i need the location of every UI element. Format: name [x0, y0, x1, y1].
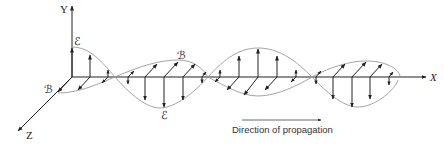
em-wave-diagram: [0, 0, 444, 148]
axes: [18, 6, 426, 131]
x-axis-label: X: [430, 72, 437, 83]
electric-field-label-bottom: ℰ: [161, 110, 168, 121]
magnetic-field-vectors: [58, 62, 393, 95]
propagation-label: Direction of propagation: [232, 124, 333, 135]
z-axis-label: Z: [26, 130, 33, 141]
electric-field-label-top: ℰ: [74, 36, 81, 47]
magnetic-field-label-top: ℬ: [177, 50, 186, 61]
magnetic-field-label-left: ℬ: [44, 84, 53, 95]
magnetic-field-envelope: [58, 60, 400, 96]
y-axis-label: Y: [60, 4, 68, 15]
